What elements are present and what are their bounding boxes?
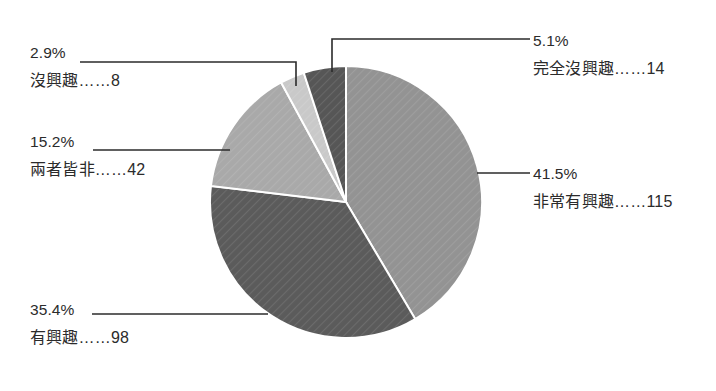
slice-name-value: 兩者皆非……42: [30, 162, 145, 178]
pie-texture: [211, 67, 481, 337]
slice-name-value: 完全沒興趣……14: [533, 61, 665, 77]
slice-percent: 15.2%: [30, 134, 145, 150]
slice-name-value: 非常有興趣……115: [533, 194, 673, 210]
slice-label-completely-not-interested: 5.1% 完全沒興趣……14: [533, 33, 665, 77]
slice-label-not-interested: 2.9% 沒興趣……8: [30, 45, 120, 89]
slice-label-very-interested: 41.5% 非常有興趣……115: [533, 166, 673, 210]
slice-name-value: 沒興趣……8: [30, 73, 120, 89]
slice-label-interested: 35.4% 有興趣……98: [30, 302, 129, 346]
slice-percent: 2.9%: [30, 45, 120, 61]
pie-chart-figure: 5.1% 完全沒興趣……14 41.5% 非常有興趣……115 35.4% 有興…: [0, 0, 716, 391]
slice-name-value: 有興趣……98: [30, 330, 129, 346]
pie-hatch-overlay: [211, 67, 481, 337]
slice-percent: 41.5%: [533, 166, 673, 182]
slice-label-neither: 15.2% 兩者皆非……42: [30, 134, 145, 178]
slice-percent: 35.4%: [30, 302, 129, 318]
slice-percent: 5.1%: [533, 33, 665, 49]
